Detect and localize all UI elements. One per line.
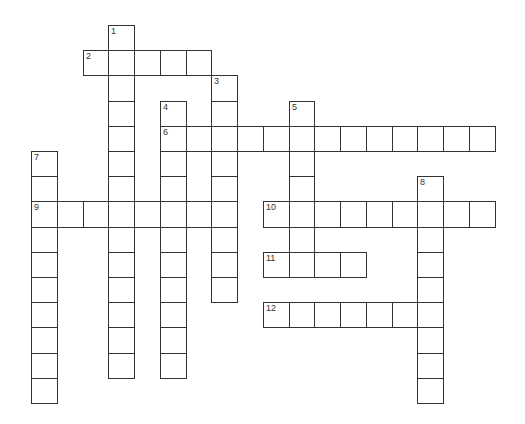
crossword-cell[interactable] [31,277,58,303]
crossword-cell[interactable]: 1 [108,25,135,51]
crossword-cell[interactable]: 9 [31,201,58,228]
crossword-cell[interactable] [417,353,444,379]
crossword-cell[interactable] [31,176,58,202]
crossword-cell[interactable]: 8 [417,176,444,202]
crossword-cell[interactable] [108,353,135,379]
crossword-cell[interactable] [366,201,393,228]
clue-number: 10 [266,202,276,213]
crossword-cell[interactable] [417,302,444,328]
crossword-cell[interactable] [160,277,187,303]
crossword-cell[interactable] [108,101,135,127]
crossword-cell[interactable] [469,201,496,228]
crossword-cell[interactable] [417,227,444,253]
crossword-cell[interactable] [392,126,418,152]
crossword-cell[interactable] [57,201,84,228]
crossword-cell[interactable] [108,227,135,253]
crossword-cell[interactable] [211,176,238,202]
crossword-cell[interactable]: 6 [160,126,187,152]
crossword-cell[interactable] [31,378,58,404]
crossword-cell[interactable]: 10 [263,201,290,228]
crossword-cell[interactable]: 3 [211,75,238,102]
crossword-cell[interactable] [314,302,341,328]
crossword-cell[interactable] [31,252,58,278]
crossword-cell[interactable] [108,75,135,102]
crossword-cell[interactable] [340,302,367,328]
crossword-cell[interactable]: 5 [289,101,315,127]
crossword-cell[interactable] [392,302,418,328]
crossword-cell[interactable] [289,302,315,328]
crossword-cell[interactable] [160,227,187,253]
crossword-cell[interactable] [417,378,444,404]
crossword-cell[interactable] [289,201,315,228]
crossword-cell[interactable] [108,252,135,278]
crossword-cell[interactable]: 4 [160,101,187,127]
crossword-cell[interactable] [469,126,496,152]
crossword-cell[interactable] [108,50,135,76]
crossword-cell[interactable] [314,252,341,278]
crossword-cell[interactable] [134,50,161,76]
clue-number: 5 [292,102,297,113]
crossword-cell[interactable] [160,302,187,328]
crossword-cell[interactable] [340,126,367,152]
crossword-cell[interactable] [289,227,315,253]
crossword-cell[interactable] [340,201,367,228]
crossword-cell[interactable] [83,201,109,228]
crossword-cell[interactable] [31,227,58,253]
clue-number: 6 [163,127,168,138]
crossword-cell[interactable]: 11 [263,252,290,278]
crossword-cell[interactable] [237,126,264,152]
crossword-cell[interactable] [443,201,470,228]
crossword-cell[interactable] [211,201,238,228]
crossword-cell[interactable]: 2 [83,50,109,76]
crossword-cell[interactable] [108,176,135,202]
crossword-cell[interactable] [134,201,161,228]
crossword-cell[interactable] [366,302,393,328]
crossword-cell[interactable] [443,126,470,152]
crossword-cell[interactable] [211,252,238,278]
crossword-cell[interactable] [108,302,135,328]
crossword-grid: 123465798101112 [0,0,525,424]
crossword-cell[interactable] [211,227,238,253]
crossword-cell[interactable] [366,126,393,152]
crossword-cell[interactable] [417,126,444,152]
crossword-cell[interactable] [211,277,238,303]
crossword-cell[interactable] [160,353,187,379]
crossword-cell[interactable] [417,252,444,278]
crossword-cell[interactable] [263,126,290,152]
crossword-cell[interactable] [31,327,58,354]
crossword-cell[interactable] [289,252,315,278]
crossword-cell[interactable] [211,151,238,177]
crossword-cell[interactable] [186,50,212,76]
crossword-cell[interactable]: 12 [263,302,290,328]
crossword-cell[interactable] [160,151,187,177]
crossword-cell[interactable] [160,50,187,76]
clue-number: 12 [266,303,276,314]
crossword-cell[interactable] [108,201,135,228]
crossword-cell[interactable] [392,201,418,228]
crossword-cell[interactable] [314,126,341,152]
crossword-cell[interactable] [160,252,187,278]
crossword-cell[interactable] [160,201,187,228]
crossword-cell[interactable] [289,126,315,152]
crossword-cell[interactable] [31,353,58,379]
crossword-cell[interactable] [289,176,315,202]
crossword-cell[interactable] [417,277,444,303]
crossword-cell[interactable] [417,327,444,354]
crossword-cell[interactable] [108,151,135,177]
crossword-cell[interactable] [108,327,135,354]
crossword-cell[interactable] [108,126,135,152]
crossword-cell[interactable] [314,201,341,228]
clue-number: 11 [266,253,275,264]
crossword-cell[interactable] [289,151,315,177]
crossword-cell[interactable] [108,277,135,303]
crossword-cell[interactable] [160,327,187,354]
crossword-cell[interactable] [186,126,212,152]
crossword-cell[interactable] [211,101,238,127]
crossword-cell[interactable] [160,176,187,202]
crossword-cell[interactable] [211,126,238,152]
crossword-cell[interactable] [340,252,367,278]
crossword-cell[interactable] [31,302,58,328]
crossword-cell[interactable]: 7 [31,151,58,177]
crossword-cell[interactable] [186,201,212,228]
crossword-cell[interactable] [417,201,444,228]
